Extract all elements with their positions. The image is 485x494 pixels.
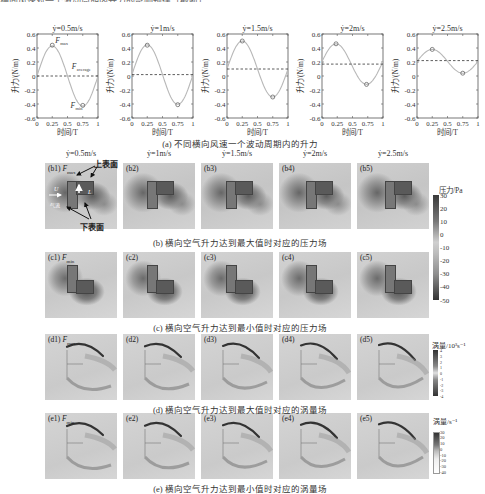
d-field-2: (d2) bbox=[123, 334, 195, 400]
truncated-header-text: 横向风速对一个波动周期内升力的影响规律（截断） bbox=[0, 0, 300, 2]
c-field-5: (c5) bbox=[357, 252, 429, 318]
colorbar-tick: 4 bbox=[440, 348, 442, 353]
b-field-2: (b2) bbox=[123, 163, 195, 229]
colorbar-tick: 30 bbox=[440, 192, 447, 200]
panel-label: (e3) bbox=[204, 414, 216, 423]
vorticity-d-colorbar bbox=[433, 350, 438, 396]
svg-text:0.6: 0.6 bbox=[122, 31, 131, 39]
svg-text:0: 0 bbox=[222, 73, 226, 81]
deck-upper-block bbox=[156, 280, 174, 294]
speed-title-3: ẏ=1.5m/s bbox=[197, 149, 277, 158]
deck-upper-block bbox=[315, 181, 333, 195]
d-field-5: (d5) bbox=[357, 334, 429, 400]
svg-text:0.75: 0.75 bbox=[362, 120, 374, 127]
svg-text:-0.2: -0.2 bbox=[119, 87, 131, 95]
svg-text:0: 0 bbox=[415, 120, 419, 127]
panel-label: (e4) bbox=[282, 414, 294, 423]
caption-c: (c) 横向空气升力达到最小值时对应的压力场 bbox=[120, 321, 360, 333]
panel-label: (d3) bbox=[204, 335, 217, 344]
svg-text:时间/T: 时间/T bbox=[342, 127, 363, 137]
svg-text:升力/(N/m): 升力/(N/m) bbox=[10, 58, 20, 93]
svg-text:1: 1 bbox=[381, 120, 384, 127]
e-field-4: (e4) bbox=[279, 413, 351, 479]
colorbar-tick: 10 bbox=[440, 218, 447, 226]
colorbar-tick: 20 bbox=[440, 435, 445, 440]
colorbar-tick: -2 bbox=[440, 383, 443, 388]
e-field-1: (e1) Fmin bbox=[45, 413, 117, 479]
colorbar-tick: -20 bbox=[440, 458, 446, 463]
svg-text:-0.4: -0.4 bbox=[214, 101, 226, 109]
panel-label: (b5) bbox=[360, 164, 373, 173]
lift-chart-3: ẏ=1.5m/s0.60.40.20-0.2-0.4-0.600.250.50.… bbox=[199, 18, 294, 138]
svg-text:0.2: 0.2 bbox=[122, 59, 131, 67]
e-field-2: (e2) bbox=[123, 413, 195, 479]
svg-text:1: 1 bbox=[191, 120, 194, 127]
svg-text:0: 0 bbox=[127, 73, 131, 81]
svg-text:0.5: 0.5 bbox=[158, 120, 167, 127]
chart-title: ẏ=2.5m/s bbox=[432, 24, 462, 33]
c-field-4: (c4) bbox=[279, 252, 351, 318]
speed-title-5: ẏ=2.5m/s bbox=[353, 149, 433, 158]
chart-title: ẏ=1.5m/s bbox=[242, 24, 272, 33]
svg-text:0.4: 0.4 bbox=[407, 45, 416, 53]
c-field-3: (c3) bbox=[201, 252, 273, 318]
svg-text:0.25: 0.25 bbox=[426, 120, 438, 127]
deck-upper-block bbox=[235, 280, 253, 294]
deck-upper-block bbox=[394, 181, 412, 195]
svg-text:0.6: 0.6 bbox=[407, 31, 416, 39]
chart-title: ẏ=1m/s bbox=[150, 24, 174, 33]
svg-text:0.75: 0.75 bbox=[267, 120, 279, 127]
svg-text:0.2: 0.2 bbox=[217, 59, 226, 67]
svg-text:0.75: 0.75 bbox=[172, 120, 184, 127]
colorbar-tick: -10 bbox=[440, 453, 446, 458]
colorbar-tick: 3 bbox=[440, 354, 442, 359]
colorbar-tick: 0 bbox=[440, 231, 444, 239]
svg-text:时间/T: 时间/T bbox=[247, 127, 268, 137]
svg-text:0: 0 bbox=[317, 73, 321, 81]
panel-label: (c3) bbox=[204, 253, 216, 262]
e-field-5: (e5) bbox=[357, 413, 429, 479]
lift-chart-4: ẏ=2m/s0.60.40.20-0.2-0.4-0.600.250.50.75… bbox=[294, 18, 389, 138]
svg-text:0.6: 0.6 bbox=[312, 31, 321, 39]
colorbar-tick: -20 bbox=[440, 257, 449, 265]
b-field-5: (b5) bbox=[357, 163, 429, 229]
colorbar-tick: -50 bbox=[440, 297, 449, 305]
panel-label: (e5) bbox=[360, 414, 372, 423]
svg-text:升力/(N/m): 升力/(N/m) bbox=[295, 58, 305, 93]
svg-text:0.2: 0.2 bbox=[312, 59, 321, 67]
colorbar-tick: 10 bbox=[440, 441, 445, 446]
deck-upper-block bbox=[315, 280, 333, 294]
svg-text:0.25: 0.25 bbox=[236, 120, 248, 127]
colorbar-tick: 0 bbox=[440, 447, 442, 452]
panel-label: (d4) bbox=[282, 335, 295, 344]
svg-text:0.6: 0.6 bbox=[217, 31, 226, 39]
colorbar-tick: 2 bbox=[440, 360, 442, 365]
panel-label: (d1) Fmax bbox=[48, 335, 76, 346]
deck-upper-block bbox=[76, 280, 94, 294]
panel-label: (c2) bbox=[126, 253, 138, 262]
panel-label: (c1) Fmin bbox=[48, 253, 74, 264]
svg-text:0: 0 bbox=[412, 73, 416, 81]
svg-text:min: min bbox=[76, 106, 84, 111]
caption-e: (e) 横向空气升力达到最小值时对应的涡量场 bbox=[120, 482, 360, 494]
svg-text:0: 0 bbox=[320, 120, 324, 127]
svg-text:0.5: 0.5 bbox=[443, 120, 452, 127]
svg-text:0.25: 0.25 bbox=[331, 120, 343, 127]
panel-label: (c4) bbox=[282, 253, 294, 262]
svg-text:-0.6: -0.6 bbox=[214, 115, 226, 123]
deck-upper-block bbox=[156, 181, 174, 195]
svg-text:-0.4: -0.4 bbox=[119, 101, 131, 109]
svg-text:0.6: 0.6 bbox=[27, 31, 36, 39]
svg-text:0.5: 0.5 bbox=[253, 120, 262, 127]
panel-label: (e2) bbox=[126, 414, 138, 423]
svg-text:-0.2: -0.2 bbox=[214, 87, 226, 95]
lift-chart-1: ẏ=0.5m/s0.60.40.20-0.2-0.4-0.600.250.50.… bbox=[9, 18, 104, 138]
svg-text:0.5: 0.5 bbox=[63, 120, 72, 127]
svg-text:升力/(N/m): 升力/(N/m) bbox=[390, 58, 400, 93]
svg-text:0: 0 bbox=[225, 120, 229, 127]
chart-title: ẏ=2m/s bbox=[340, 24, 364, 33]
vorticity-d-colorbar-title: 涡量/10³s⁻¹ bbox=[432, 340, 466, 350]
b1-arrows bbox=[45, 163, 117, 229]
colorbar-tick: -30 bbox=[440, 464, 446, 469]
svg-text:-0.2: -0.2 bbox=[404, 87, 416, 95]
